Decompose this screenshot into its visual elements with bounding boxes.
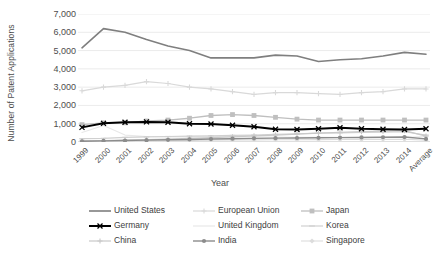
legend-swatch-icon [192, 221, 216, 231]
data-point-marker [202, 238, 206, 242]
legend-item-japan[interactable]: Japan [300, 203, 388, 218]
legend-swatch-icon [192, 206, 216, 216]
legend-label: United States [114, 206, 165, 215]
legend-label: Japan [326, 206, 349, 215]
legend-swatch-icon [88, 221, 112, 231]
legend-swatch-icon [88, 206, 112, 216]
legend-label: India [218, 236, 236, 245]
legend-swatch-icon [192, 236, 216, 246]
chart-legend: United StatesEuropean UnionJapanGermanyU… [88, 203, 388, 248]
legend-item-germany[interactable]: Germany [88, 218, 192, 233]
x-axis-tick-labels: 1999200020012002200320042005200620072008… [0, 0, 440, 200]
legend-label: Korea [326, 221, 349, 230]
legend-label: United Kingdom [218, 221, 278, 230]
data-point-marker [97, 238, 102, 243]
patent-applications-line-chart: Number of Patent Applications 7,0006,000… [0, 0, 440, 257]
legend-item-india[interactable]: India [192, 233, 300, 248]
legend-swatch-icon [88, 236, 112, 246]
legend-item-european-union[interactable]: European Union [192, 203, 300, 218]
x-axis-title: Year [0, 178, 440, 188]
legend-item-united-kingdom[interactable]: United Kingdom [192, 218, 300, 233]
legend-item-singapore[interactable]: Singapore [300, 233, 388, 248]
legend-label: European Union [218, 206, 279, 215]
legend-label: Singapore [326, 236, 365, 245]
legend-item-china[interactable]: China [88, 233, 192, 248]
legend-item-korea[interactable]: Korea [300, 218, 388, 233]
legend-item-united-states[interactable]: United States [88, 203, 192, 218]
legend-swatch-icon [300, 206, 324, 216]
data-point-marker [310, 208, 315, 213]
legend-label: Germany [114, 221, 149, 230]
data-point-marker [201, 208, 206, 213]
legend-label: China [114, 236, 136, 245]
data-point-marker [309, 238, 314, 243]
legend-swatch-icon [300, 221, 324, 231]
legend-swatch-icon [300, 236, 324, 246]
